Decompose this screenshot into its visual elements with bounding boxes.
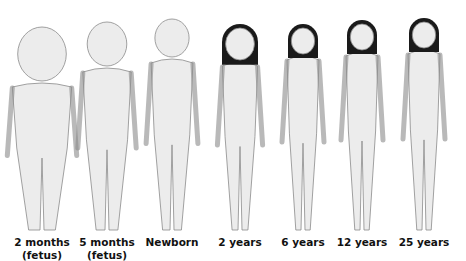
figure-3 xyxy=(217,24,262,230)
figure-6 xyxy=(403,18,445,230)
stage-label: 2 months(fetus) xyxy=(14,236,69,261)
figure-1 xyxy=(78,22,136,230)
stage-label: Newborn xyxy=(146,236,199,249)
figure-5 xyxy=(341,20,383,230)
proportion-diagram: 2 months(fetus)5 months(fetus)Newborn2 y… xyxy=(0,0,466,261)
stage-sublabel-text: (fetus) xyxy=(79,249,134,261)
stage-sublabel-text: (fetus) xyxy=(14,249,69,261)
stage-label-text: 2 months xyxy=(14,236,69,249)
stage-label-text: 5 months xyxy=(79,236,134,249)
figure-2 xyxy=(146,19,198,230)
stage-label: 12 years xyxy=(337,236,388,249)
figures-illustration xyxy=(0,0,466,261)
figure-0 xyxy=(7,27,76,230)
stage-label-text: 6 years xyxy=(281,236,324,249)
stage-label-text: 25 years xyxy=(399,236,450,249)
stage-label: 6 years xyxy=(281,236,324,249)
stage-label: 25 years xyxy=(399,236,450,249)
figure-4 xyxy=(282,24,324,230)
stage-label-text: 2 years xyxy=(218,236,261,249)
stage-label-text: Newborn xyxy=(146,236,199,249)
stage-label: 2 years xyxy=(218,236,261,249)
stage-label: 5 months(fetus) xyxy=(79,236,134,261)
stage-label-text: 12 years xyxy=(337,236,388,249)
